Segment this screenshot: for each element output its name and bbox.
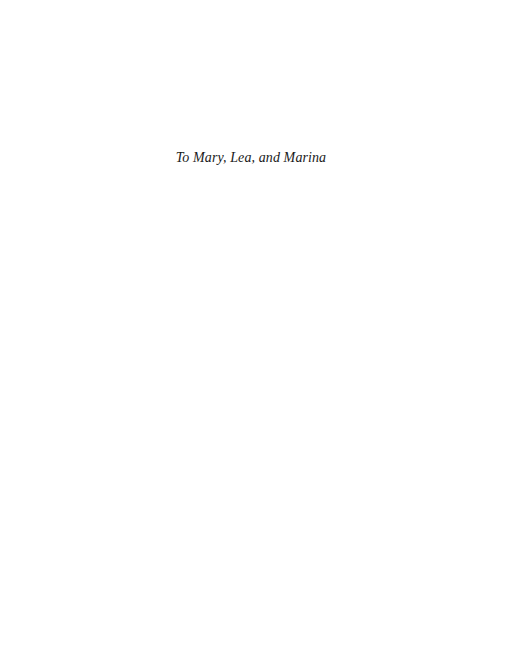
book-page: To Mary, Lea, and Marina — [0, 0, 526, 661]
dedication-text: To Mary, Lea, and Marina — [0, 149, 502, 167]
